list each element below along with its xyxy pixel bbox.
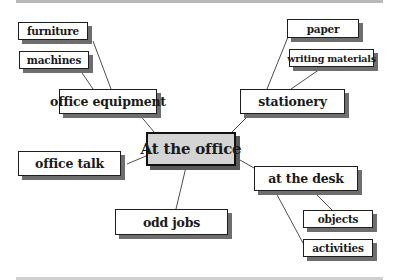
branch-at-the-desk: at the desk: [254, 166, 358, 191]
leaf-label: furniture: [27, 25, 79, 37]
branch-label: at the desk: [268, 171, 344, 186]
link-writing-materials: [291, 67, 323, 89]
leaf-activities: activities: [303, 239, 373, 257]
leaf-objects: objects: [303, 210, 373, 228]
center-label: At the office: [141, 140, 242, 158]
leaf-label: objects: [318, 213, 359, 225]
leaf-furniture: furniture: [18, 22, 88, 40]
branch-label: office equipment: [50, 94, 166, 109]
leaf-label: writing materials: [287, 53, 376, 64]
leaf-label: paper: [307, 23, 340, 35]
branch-label: stationery: [258, 94, 327, 109]
link-stationery: [232, 114, 250, 132]
link-office-equipment: [139, 114, 154, 132]
branch-label: odd jobs: [143, 215, 200, 230]
leaf-paper: paper: [287, 19, 359, 38]
leaf-writing-materials: writing materials: [289, 49, 374, 67]
center-node: At the office: [146, 132, 236, 166]
branch-office-equipment: office equipment: [59, 89, 157, 114]
link-activities: [275, 191, 303, 243]
leaf-machines: machines: [19, 51, 89, 69]
link-furniture: [93, 41, 111, 89]
branch-office-talk: office talk: [18, 151, 121, 176]
branch-stationery: stationery: [240, 89, 345, 114]
leaf-label: activities: [312, 242, 364, 254]
link-at-the-desk: [240, 160, 254, 168]
leaf-label: machines: [27, 54, 82, 66]
link-machines: [80, 70, 93, 89]
branch-odd-jobs: odd jobs: [115, 209, 228, 235]
link-paper: [267, 37, 288, 89]
link-odd-jobs: [176, 167, 186, 209]
link-objects: [313, 191, 332, 210]
branch-label: office talk: [35, 156, 104, 171]
